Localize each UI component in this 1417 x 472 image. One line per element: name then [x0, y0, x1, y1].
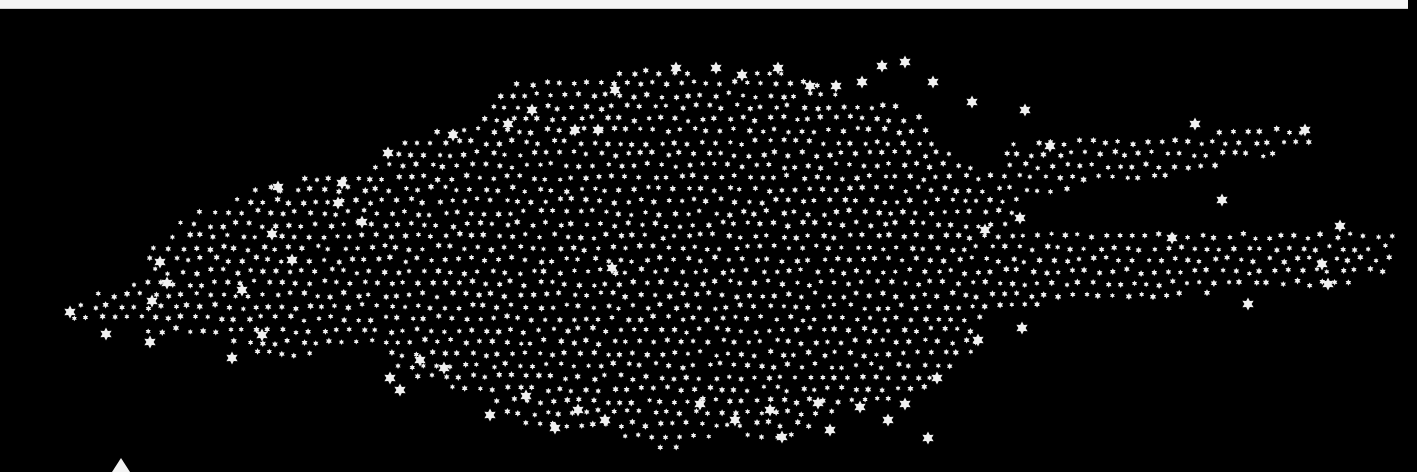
triangle-marker-icon [112, 458, 130, 472]
